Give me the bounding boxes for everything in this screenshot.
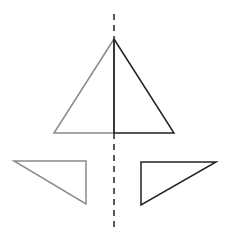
symmetry-diagram (0, 0, 228, 243)
